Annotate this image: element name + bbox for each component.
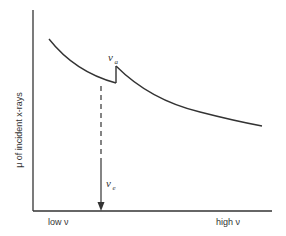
absorption-edge-diagram: μ of incident x-rays ν a ν e low ν high … bbox=[0, 0, 286, 236]
absorption-curve-low bbox=[49, 39, 116, 83]
edge-top-label-subscript: a bbox=[115, 58, 119, 66]
y-axis-label: μ of incident x-rays bbox=[14, 92, 24, 168]
edge-top-label-symbol: ν bbox=[108, 51, 113, 63]
absorption-curve-high bbox=[116, 66, 262, 126]
edge-bottom-label-subscript: e bbox=[113, 184, 116, 192]
x-axis-high-label: high ν bbox=[216, 217, 241, 227]
arrow-down-icon bbox=[98, 202, 105, 211]
x-axis-low-label: low ν bbox=[48, 217, 69, 227]
edge-bottom-label-symbol: ν bbox=[106, 177, 111, 189]
